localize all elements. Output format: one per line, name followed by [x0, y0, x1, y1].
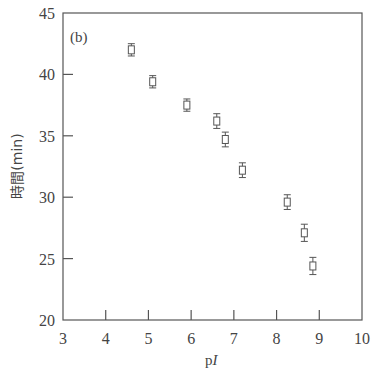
x-tick-label: 5	[144, 330, 152, 347]
y-tick-label: 30	[39, 189, 55, 206]
data-point	[128, 44, 135, 56]
x-axis-label: pI	[205, 352, 219, 368]
data-point	[239, 163, 246, 178]
x-tick-label: 3	[59, 330, 67, 347]
x-tick-label: 10	[354, 330, 370, 347]
data-point	[301, 224, 308, 241]
y-tick-label: 40	[39, 66, 55, 83]
tick-labels: 345678910202530354045	[39, 5, 370, 347]
x-tick-label: 6	[187, 330, 195, 347]
x-tick-label: 9	[315, 330, 323, 347]
y-tick-label: 20	[39, 312, 55, 329]
plot-frame	[63, 13, 362, 320]
data-point	[309, 257, 316, 274]
data-point	[213, 114, 220, 129]
data-point	[284, 195, 291, 210]
scatter-chart: 345678910202530354045 (b) pI 時間(min)	[0, 0, 375, 372]
x-tick-label: 8	[273, 330, 281, 347]
y-tick-label: 25	[39, 251, 55, 268]
data-point	[149, 76, 156, 88]
panel-label: (b)	[70, 29, 88, 46]
axis-ticks	[63, 74, 319, 320]
y-axis-label: 時間(min)	[9, 133, 25, 198]
x-tick-label: 7	[230, 330, 238, 347]
y-tick-label: 45	[39, 5, 55, 22]
y-tick-label: 35	[39, 128, 55, 145]
x-tick-label: 4	[102, 330, 110, 347]
data-points	[128, 44, 317, 275]
data-point	[183, 99, 190, 111]
data-point	[222, 132, 229, 147]
